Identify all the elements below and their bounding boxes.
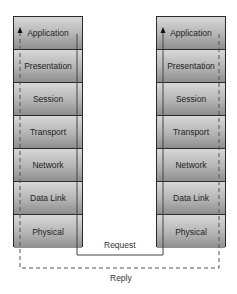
left-layer-network: Network: [14, 149, 82, 182]
layer-label: Transport: [173, 127, 209, 137]
layer-label: Physical: [175, 227, 207, 237]
left-layer-physical: Physical: [14, 215, 82, 248]
layer-label: Physical: [32, 227, 64, 237]
layer-label: Data Link: [30, 193, 66, 203]
right-layer-session: Session: [157, 83, 225, 116]
layer-label: Session: [33, 94, 63, 104]
request-path-line: [77, 33, 163, 255]
layer-label: Application: [27, 28, 69, 38]
layer-label: Transport: [30, 127, 66, 137]
request-label: Request: [104, 240, 136, 250]
layer-label: Application: [170, 28, 212, 38]
layer-label: Network: [32, 160, 63, 170]
left-layer-session: Session: [14, 83, 82, 116]
layer-label: Data Link: [173, 193, 209, 203]
layer-label: Network: [175, 160, 206, 170]
right-layer-physical: Physical: [157, 215, 225, 248]
left-layer-application: Application: [14, 17, 82, 50]
left-layer-transport: Transport: [14, 116, 82, 149]
reply-label: Reply: [110, 273, 132, 283]
right-layer-transport: Transport: [157, 116, 225, 149]
left-layer-data-link: Data Link: [14, 182, 82, 215]
left-osi-stack: Application Presentation Session Transpo…: [13, 16, 83, 247]
right-layer-network: Network: [157, 149, 225, 182]
layer-label: Presentation: [167, 61, 215, 71]
left-layer-presentation: Presentation: [14, 50, 82, 83]
right-layer-presentation: Presentation: [157, 50, 225, 83]
layer-label: Presentation: [24, 61, 72, 71]
right-layer-data-link: Data Link: [157, 182, 225, 215]
layer-label: Session: [176, 94, 206, 104]
right-osi-stack: Application Presentation Session Transpo…: [156, 16, 226, 247]
right-layer-application: Application: [157, 17, 225, 50]
